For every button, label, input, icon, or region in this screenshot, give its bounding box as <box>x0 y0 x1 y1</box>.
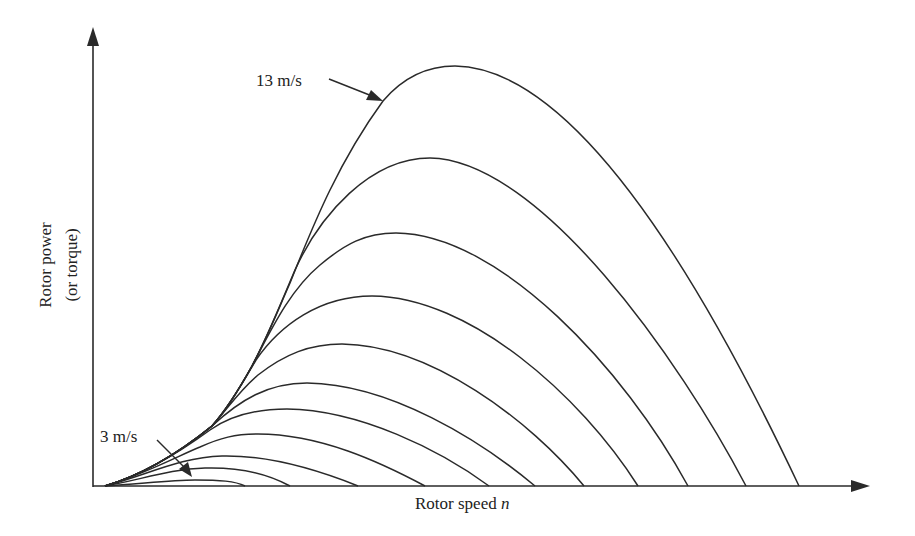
annotation-13ms: 13 m/s <box>256 71 383 101</box>
x-axis-label: Rotor speed n <box>415 494 509 513</box>
x-axis-arrow-icon <box>851 480 870 492</box>
y-axis-label-line1: Rotor power <box>36 222 55 308</box>
curve-3ms <box>105 480 245 486</box>
annotation-13ms-label: 13 m/s <box>256 71 302 90</box>
curve-6ms <box>105 434 425 486</box>
y-axis-label-line2: (or torque) <box>62 228 81 301</box>
annotation-3ms-label: 3 m/s <box>100 427 137 446</box>
x-axis-label-var: n <box>501 494 510 513</box>
y-axis-arrow-icon <box>87 27 99 46</box>
curve-9ms <box>105 344 584 486</box>
curve-7ms <box>105 409 489 486</box>
curve-8ms <box>105 383 535 486</box>
x-axis-label-text: Rotor speed <box>415 494 501 513</box>
y-axis <box>87 27 99 487</box>
curves <box>105 66 799 486</box>
power-speed-chart: Rotor power (or torque) Rotor speed n 13… <box>0 0 915 536</box>
y-axis-label: Rotor power (or torque) <box>36 222 81 308</box>
annotation-13ms-arrow-line <box>329 79 372 96</box>
x-axis <box>93 480 870 492</box>
annotation-13ms-arrow-icon <box>366 90 383 101</box>
curve-13ms <box>105 66 799 486</box>
